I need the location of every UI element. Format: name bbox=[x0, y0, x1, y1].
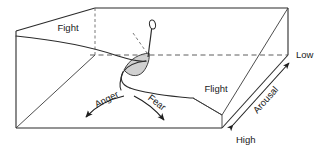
state-pointer bbox=[148, 19, 156, 57]
behaviour-surface bbox=[16, 36, 222, 115]
box-inner-diagonal-right bbox=[222, 8, 288, 115]
label-arousal-low: Low bbox=[296, 49, 314, 60]
pointer-needle-line bbox=[148, 26, 152, 57]
arousal-axis bbox=[233, 63, 289, 125]
label-fight: Fight bbox=[57, 22, 78, 33]
label-flight: Flight bbox=[204, 83, 228, 94]
pointer-head-icon bbox=[149, 19, 157, 29]
arousal-axis-line bbox=[233, 63, 289, 125]
figure-labels: Fight Flight Low High Anger Fear Arousal bbox=[57, 22, 313, 145]
label-arousal-high: High bbox=[236, 134, 256, 145]
box-inner-diagonal-left bbox=[16, 55, 95, 128]
upper-sheet-fold-curve bbox=[16, 36, 146, 61]
cusp-catastrophe-figure: Fight Flight Low High Anger Fear Arousal bbox=[0, 0, 322, 149]
label-anger: Anger bbox=[93, 88, 121, 109]
cusp-shaded-region bbox=[124, 53, 149, 76]
lower-sheet-curve bbox=[130, 88, 193, 98]
box-top-left-edge bbox=[16, 8, 95, 31]
dashed-guides bbox=[90, 8, 288, 55]
sheet-right-trailing-edge bbox=[193, 98, 222, 115]
diagram-canvas: Fight Flight Low High Anger Fear Arousal bbox=[0, 0, 322, 149]
pointer-dashed-guide bbox=[133, 33, 147, 53]
